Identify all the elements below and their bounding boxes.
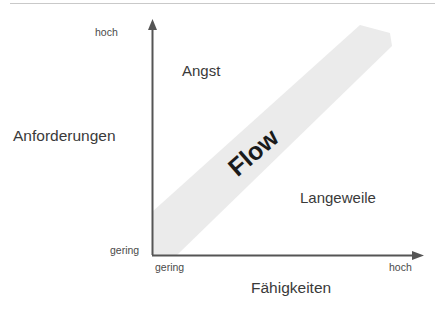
flow-band-label-wrapper: Flow	[225, 140, 305, 174]
y-axis-low-tick-label: gering	[110, 245, 139, 256]
x-axis-title: Fähigkeiten	[251, 280, 331, 296]
x-axis-low-tick-label: gering	[155, 262, 184, 273]
flow-channel-diagram: hoch gering gering hoch Anforderungen Fä…	[0, 0, 439, 309]
y-axis-high-tick-label: hoch	[95, 27, 118, 38]
arrow-right-icon	[412, 251, 424, 260]
diagram-canvas	[0, 0, 439, 309]
zone-label-langeweile: Langeweile	[300, 190, 376, 205]
zone-label-angst: Angst	[182, 63, 220, 78]
arrow-up-icon	[148, 19, 157, 30]
x-axis-high-tick-label: hoch	[389, 262, 412, 273]
y-axis-title: Anforderungen	[13, 128, 116, 144]
